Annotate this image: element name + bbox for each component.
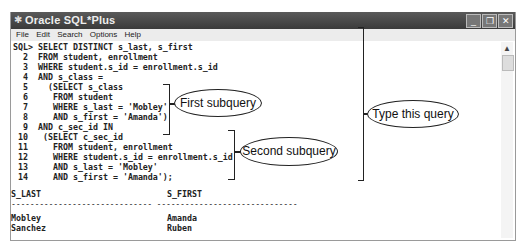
scroll-up-icon[interactable]: ▲ — [502, 45, 512, 53]
menu-edit[interactable]: Edit — [36, 29, 50, 41]
column-header-s-last: S_LAST — [11, 189, 41, 199]
result-cell: Ruben — [167, 223, 192, 233]
menu-help[interactable]: Help — [125, 29, 141, 41]
sql-line: 4 AND s_class = — [13, 72, 103, 82]
sqlplus-window: ✱ Oracle SQL*Plus _ ❐ ✕ File Edit Search… — [10, 12, 516, 241]
sql-line: 3 WHERE student.s_id = enrollment.s_id — [13, 62, 218, 72]
result-separator: ------------------------------ ---------… — [11, 199, 297, 209]
sql-line: SQL> SELECT DISTINCT s_last, s_first — [13, 42, 193, 52]
type-this-query-callout: Type this query — [367, 100, 459, 128]
sql-line: 7 WHERE s_last = 'Mobley' — [13, 102, 168, 112]
oracle-app-icon: ✱ — [14, 14, 22, 25]
sql-console[interactable]: SQL> SELECT DISTINCT s_last, s_first 2 F… — [13, 42, 491, 238]
second-subquery-bracket — [228, 130, 235, 180]
sql-line: 12 WHERE student.s_id = enrollment.s_id — [13, 152, 233, 162]
close-button[interactable]: ✕ — [498, 14, 513, 28]
sql-line: 2 FROM student, enrollment — [13, 52, 158, 62]
second-subquery-callout: Second subquery — [240, 137, 338, 166]
sql-line: 14 AND s_first = 'Amanda'); — [13, 172, 173, 182]
result-cell: Mobley — [11, 213, 41, 223]
minimize-button[interactable]: _ — [466, 14, 481, 28]
vertical-scrollbar[interactable]: ▲ — [501, 42, 513, 238]
first-subquery-bracket — [163, 84, 170, 135]
whole-query-bracket — [358, 27, 364, 181]
result-cell: Amanda — [167, 213, 197, 223]
column-header-s-first: S_FIRST — [167, 189, 202, 199]
menu-search[interactable]: Search — [57, 29, 82, 41]
restore-button[interactable]: ❐ — [482, 14, 497, 28]
first-subquery-callout: First subquery — [174, 89, 262, 117]
menu-options[interactable]: Options — [90, 29, 118, 41]
sql-line: 8 AND s_first = 'Amanda') — [13, 112, 168, 122]
scroll-thumb[interactable] — [502, 55, 514, 71]
result-cell: Sanchez — [11, 223, 46, 233]
sql-line: 11 FROM student, enrollment — [13, 142, 173, 152]
sql-line: 5 (SELECT s_class — [13, 82, 123, 92]
menu-bar: File Edit Search Options Help — [11, 29, 515, 41]
menu-file[interactable]: File — [16, 29, 29, 41]
window-title: Oracle SQL*Plus — [25, 14, 115, 26]
title-bar[interactable]: ✱ Oracle SQL*Plus _ ❐ ✕ — [11, 12, 515, 29]
sql-line: 13 AND s_last = 'Mobley' — [13, 162, 158, 172]
sql-line: 6 FROM student — [13, 92, 113, 102]
sql-line: 9 AND c_sec_id IN — [13, 122, 113, 132]
sql-line: 10 (SELECT c_sec_id — [13, 132, 123, 142]
